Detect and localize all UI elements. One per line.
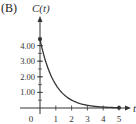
y-tick-label: 2.00 — [20, 72, 35, 82]
decay-chart: tC(t)0123451.002.003.004.00 — [0, 0, 136, 124]
x-tick-label: 2 — [69, 114, 74, 124]
endpoint-dot — [117, 106, 121, 110]
decay-curve-path — [40, 39, 119, 107]
x-tick-label: 0 — [29, 114, 34, 124]
y-tick-label: 1.00 — [20, 87, 35, 97]
x-tick-label: 1 — [54, 114, 59, 124]
y-axis-label: C(t) — [32, 2, 50, 15]
y-tick-label: 3.00 — [20, 56, 35, 66]
endpoint-dot — [38, 37, 42, 41]
y-tick-label: 4.00 — [20, 41, 35, 51]
x-tick-label: 4 — [101, 114, 106, 124]
x-tick-label: 5 — [117, 114, 122, 124]
decay-curve — [38, 37, 121, 109]
y-axis-arrow-icon — [38, 16, 43, 22]
axes: tC(t)0123451.002.003.004.00 — [20, 2, 136, 124]
x-axis-arrow-icon — [125, 106, 131, 111]
x-tick-label: 3 — [85, 114, 90, 124]
x-axis-label: t — [133, 102, 136, 114]
